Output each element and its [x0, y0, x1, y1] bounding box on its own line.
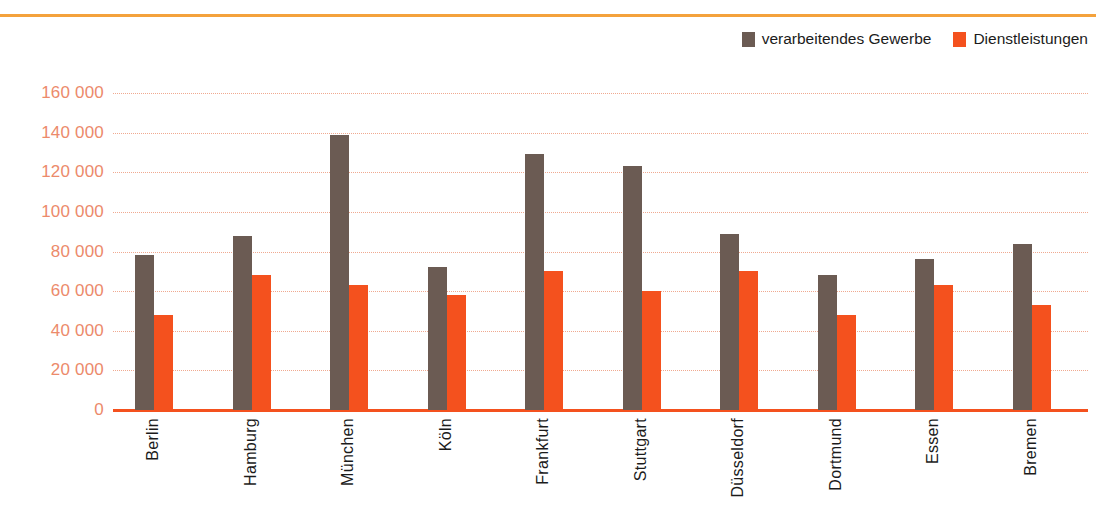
legend-swatch-services — [953, 32, 966, 47]
bar-group — [796, 93, 894, 410]
x-axis-label-cell: Bremen — [991, 414, 1089, 521]
bar-group — [406, 93, 504, 410]
bar-services[interactable] — [252, 275, 271, 410]
legend-item-label: Dienstleistungen — [973, 31, 1088, 47]
bar-services[interactable] — [544, 271, 563, 410]
bar-manufacturing[interactable] — [1013, 244, 1032, 410]
top-divider-rule — [0, 14, 1096, 17]
y-axis-tick-label: 140 000 — [0, 123, 104, 143]
bar-services[interactable] — [739, 271, 758, 410]
bar-group — [698, 93, 796, 410]
bar-manufacturing[interactable] — [623, 166, 642, 410]
bar-manufacturing[interactable] — [233, 236, 252, 410]
bar-group — [308, 93, 406, 410]
bar-manufacturing[interactable] — [915, 259, 934, 410]
bar-group — [211, 93, 309, 410]
legend-swatch-manufacturing — [742, 32, 755, 47]
x-axis-tick-label: München — [339, 418, 357, 486]
bar-group — [113, 93, 211, 410]
x-axis-label-cell: Berlin — [113, 414, 211, 521]
bar-manufacturing[interactable] — [135, 255, 154, 410]
legend-item[interactable]: verarbeitendes Gewerbe — [742, 31, 932, 47]
bar-manufacturing[interactable] — [428, 267, 447, 410]
x-axis-tick-label: Frankfurt — [534, 418, 552, 485]
y-axis: 160 000140 000120 000100 00080 00060 000… — [0, 93, 104, 410]
y-axis-tick-label: 40 000 — [0, 321, 104, 341]
bar-services[interactable] — [447, 295, 466, 410]
x-axis-label-cell: Essen — [893, 414, 991, 521]
bar-services[interactable] — [642, 291, 661, 410]
bar-groups — [113, 93, 1088, 410]
x-axis-label-cell: Düsseldorf — [698, 414, 796, 521]
y-axis-tick-label: 80 000 — [0, 242, 104, 262]
legend-item[interactable]: Dienstleistungen — [953, 31, 1088, 47]
bar-services[interactable] — [1032, 305, 1051, 410]
bar-chart: verarbeitendes GewerbeDienstleistungen 1… — [0, 0, 1096, 521]
bar-group — [503, 93, 601, 410]
bar-group — [601, 93, 699, 410]
y-axis-tick-label: 20 000 — [0, 360, 104, 380]
legend-item-label: verarbeitendes Gewerbe — [762, 31, 932, 47]
x-axis-tick-label: Stuttgart — [632, 418, 650, 481]
y-axis-tick-label: 120 000 — [0, 162, 104, 182]
x-axis-tick-label: Düsseldorf — [729, 418, 747, 497]
bar-group — [991, 93, 1089, 410]
x-axis-label-cell: Dortmund — [796, 414, 894, 521]
x-axis-label-cell: Hamburg — [211, 414, 309, 521]
x-axis-label-cell: München — [308, 414, 406, 521]
x-axis-tick-label: Dortmund — [827, 418, 845, 491]
x-axis-label-cell: Köln — [406, 414, 504, 521]
x-axis-tick-label: Essen — [924, 418, 942, 464]
bar-services[interactable] — [837, 315, 856, 410]
chart-legend: verarbeitendes GewerbeDienstleistungen — [742, 29, 1088, 49]
bar-manufacturing[interactable] — [818, 275, 837, 410]
x-axis-label-cell: Stuttgart — [601, 414, 699, 521]
bar-manufacturing[interactable] — [720, 234, 739, 410]
x-axis-labels: BerlinHamburgMünchenKölnFrankfurtStuttga… — [113, 414, 1088, 521]
bar-group — [893, 93, 991, 410]
x-axis-tick-label: Bremen — [1022, 418, 1040, 476]
y-axis-tick-label: 0 — [0, 400, 104, 420]
bar-services[interactable] — [349, 285, 368, 410]
bar-manufacturing[interactable] — [525, 154, 544, 410]
bar-manufacturing[interactable] — [330, 135, 349, 410]
x-axis-tick-label: Hamburg — [242, 418, 260, 486]
x-axis-label-cell: Frankfurt — [503, 414, 601, 521]
x-axis-tick-label: Berlin — [144, 418, 162, 461]
bar-services[interactable] — [154, 315, 173, 410]
x-axis-tick-label: Köln — [437, 418, 455, 451]
bar-services[interactable] — [934, 285, 953, 410]
y-axis-tick-label: 160 000 — [0, 83, 104, 103]
y-axis-tick-label: 100 000 — [0, 202, 104, 222]
y-axis-tick-label: 60 000 — [0, 281, 104, 301]
